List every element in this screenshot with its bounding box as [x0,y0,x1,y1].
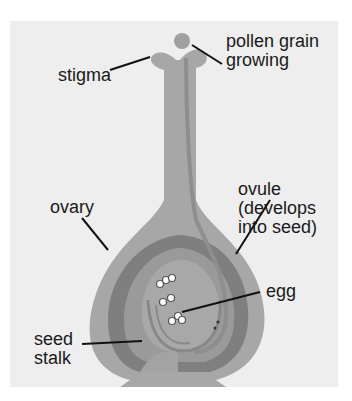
label-pollen-grain: pollen grain growing [226,32,319,70]
label-ovule: ovule (develops into seed) [238,180,317,237]
label-seed-stalk: seed stalk [34,330,73,368]
label-egg: egg [266,282,296,301]
pollen-grain [174,33,190,49]
label-ovary: ovary [50,198,94,217]
label-stigma: stigma [58,66,111,85]
